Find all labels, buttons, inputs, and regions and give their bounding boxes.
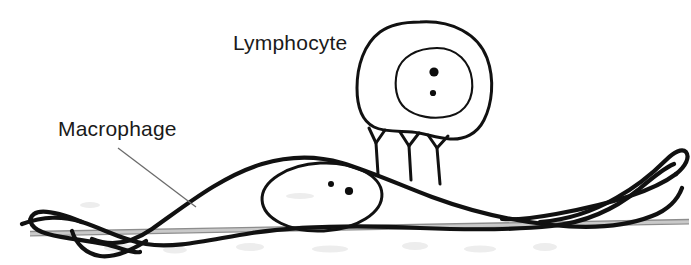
diagram-canvas: Lymphocyte Macrophage [0, 0, 691, 265]
lymphocyte-label: Lymphocyte [233, 31, 347, 54]
macrophage-nucleolus-large [345, 187, 353, 195]
lymphocyte-nucleolus-large [429, 67, 438, 76]
lymphocyte-nucleolus-small [430, 90, 436, 96]
macrophage-label: Macrophage [58, 117, 177, 140]
macrophage-nucleolus-small [328, 181, 334, 187]
figure-root: Lymphocyte Macrophage [0, 0, 691, 265]
